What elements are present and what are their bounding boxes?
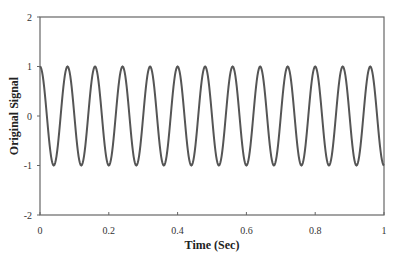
x-axis-title: Time (Sec)	[185, 238, 240, 252]
signal-chart: 210-1-2 00.20.40.60.81 Original Signal T…	[0, 0, 399, 260]
y-tick-label: 2	[27, 12, 32, 23]
y-axis-ticks: 210-1-2	[24, 12, 40, 221]
x-tick-label: 0	[38, 225, 43, 236]
x-tick-label: 0.8	[309, 225, 322, 236]
y-axis-title: Original Signal	[7, 76, 21, 155]
signal-line	[40, 67, 384, 166]
x-tick-label: 0.4	[171, 225, 184, 236]
y-tick-label: 0	[27, 111, 32, 122]
y-tick-label: -2	[24, 210, 32, 221]
x-axis-ticks: 00.20.40.60.81	[38, 212, 387, 236]
y-tick-label: 1	[27, 61, 32, 72]
x-tick-label: 1	[382, 225, 387, 236]
y-tick-label: -1	[24, 160, 32, 171]
x-tick-label: 0.2	[103, 225, 116, 236]
plot-area	[40, 17, 384, 215]
x-tick-label: 0.6	[240, 225, 253, 236]
